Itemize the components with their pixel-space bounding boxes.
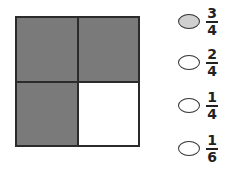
answer-option-1-4[interactable]: 1 4 [178,91,218,121]
answer-option-1-6[interactable]: 1 6 [178,134,218,164]
fraction-label: 3 4 [206,7,218,37]
answer-option-2-4[interactable]: 2 4 [178,48,218,78]
numerator: 2 [207,48,217,61]
fraction-label: 1 4 [206,91,218,121]
radio-bubble-selected[interactable] [178,14,200,29]
denominator: 4 [207,108,217,121]
grid-cell-unshaded [78,82,139,146]
denominator: 4 [207,24,217,37]
fraction-grid [15,16,140,147]
grid-cell-shaded [17,18,78,82]
numerator: 1 [207,91,217,104]
fraction-label: 1 6 [206,134,218,164]
denominator: 6 [207,151,217,164]
radio-bubble[interactable] [178,141,200,156]
answer-option-3-4[interactable]: 3 4 [178,7,218,37]
grid-cell-shaded [78,18,139,82]
numerator: 1 [207,134,217,147]
denominator: 4 [207,65,217,78]
radio-bubble[interactable] [178,55,200,70]
radio-bubble[interactable] [178,98,200,113]
grid-cell-shaded [17,82,78,146]
numerator: 3 [207,7,217,20]
fraction-label: 2 4 [206,48,218,78]
